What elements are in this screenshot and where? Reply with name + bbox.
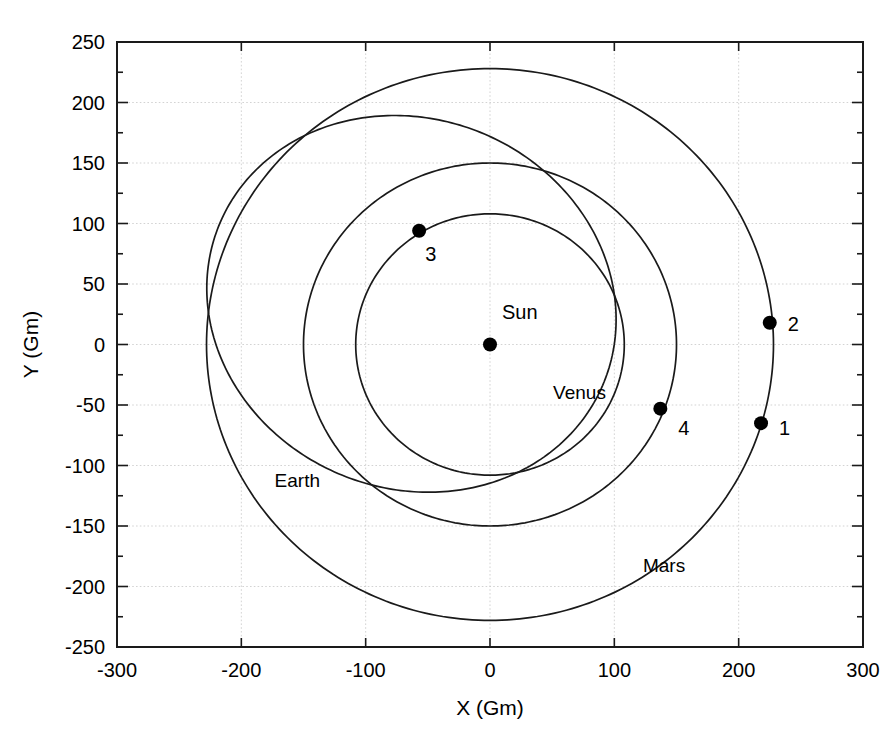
y-tick-label: 150: [72, 152, 105, 174]
y-tick-label: -200: [65, 576, 105, 598]
marker-sun: [483, 338, 497, 352]
y-tick-label: 250: [72, 31, 105, 53]
x-tick-label: 100: [598, 659, 631, 681]
chart-figure: -300-200-1000100200300-250-200-150-100-5…: [0, 0, 893, 748]
marker-4: [653, 402, 667, 416]
marker-3: [412, 224, 426, 238]
y-tick-label: 50: [83, 273, 105, 295]
y-tick-label: -250: [65, 636, 105, 658]
annotation-label-sun: Sun: [502, 301, 538, 323]
annotation-label-2: 2: [788, 313, 799, 335]
y-tick-label: -50: [76, 394, 105, 416]
orbital-transfer-plot: -300-200-1000100200300-250-200-150-100-5…: [0, 0, 893, 748]
y-tick-label: -150: [65, 515, 105, 537]
chart-text: -300-200-1000100200300-250-200-150-100-5…: [19, 31, 880, 719]
y-tick-label: 0: [94, 334, 105, 356]
annotation-label-4: 4: [678, 417, 689, 439]
x-tick-label: -100: [346, 659, 386, 681]
marker-1: [754, 416, 768, 430]
series-label-earth: Earth: [275, 470, 320, 491]
x-tick-label: 200: [722, 659, 755, 681]
series-label-mars: Mars: [643, 555, 685, 576]
marker-2: [763, 316, 777, 330]
series-label-venus: Venus: [553, 382, 606, 403]
x-tick-label: 0: [484, 659, 495, 681]
x-axis-title: X (Gm): [456, 696, 524, 719]
y-tick-label: -100: [65, 455, 105, 477]
x-tick-label: -200: [221, 659, 261, 681]
x-tick-label: 300: [846, 659, 879, 681]
annotation-label-1: 1: [779, 417, 790, 439]
x-tick-label: -300: [97, 659, 137, 681]
y-tick-label: 100: [72, 213, 105, 235]
y-axis-title: Y (Gm): [19, 311, 42, 378]
annotation-label-3: 3: [425, 243, 436, 265]
y-tick-label: 200: [72, 92, 105, 114]
